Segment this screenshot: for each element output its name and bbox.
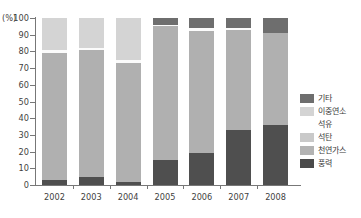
x-tick	[220, 185, 221, 189]
bar-segment-2006-천연가스[interactable]	[189, 31, 214, 153]
legend-label-5: 풍력	[318, 159, 332, 168]
bar-segment-2008-풍력[interactable]	[263, 125, 288, 185]
chart-legend: 기타이중연소석유석탄천연가스풍력	[300, 92, 358, 170]
x-tick	[257, 185, 258, 189]
y-axis-label-100: 100	[13, 14, 29, 22]
bar-segment-2003-풍력[interactable]	[79, 177, 104, 185]
bar-segment-2007-풍력[interactable]	[226, 130, 251, 185]
y-axis-label-50: 50	[19, 98, 29, 106]
x-axis-label-2007: 2007	[220, 193, 257, 202]
bar-segment-2006-기타[interactable]	[189, 18, 214, 28]
bar-segment-2003-이중연소[interactable]	[79, 18, 104, 48]
bar-segment-2005-천연가스[interactable]	[153, 26, 178, 160]
x-tick	[147, 185, 148, 189]
y-axis-label-20: 20	[19, 148, 29, 156]
x-tick	[73, 185, 74, 189]
bar-segment-2005-풍력[interactable]	[153, 160, 178, 185]
bar-2008[interactable]	[263, 18, 288, 185]
bar-segment-2003-석유[interactable]	[79, 48, 104, 50]
bar-segment-2004-천연가스[interactable]	[116, 63, 141, 182]
x-axis-label-2006: 2006	[183, 193, 220, 202]
bar-segment-2006-풍력[interactable]	[189, 153, 214, 185]
bar-segment-2004-이중연소[interactable]	[116, 18, 141, 60]
bar-2007[interactable]	[226, 18, 251, 185]
bar-segment-2002-천연가스[interactable]	[42, 53, 67, 180]
legend-label-2: 석유	[318, 120, 332, 129]
y-axis-label-0: 0	[24, 181, 29, 189]
legend-swatch-icon-5	[300, 159, 314, 168]
y-axis-label-10: 10	[19, 164, 29, 172]
x-axis-label-2008: 2008	[257, 193, 294, 202]
legend-swatch-icon-4	[300, 146, 314, 155]
y-axis-label-60: 60	[19, 81, 29, 89]
bar-segment-2007-기타[interactable]	[226, 18, 251, 28]
y-axis-label-80: 80	[19, 47, 29, 55]
legend-item-5[interactable]: 풍력	[300, 157, 358, 170]
legend-item-4[interactable]: 천연가스	[300, 144, 358, 157]
x-tick	[110, 185, 111, 189]
stacked-bar-chart: (%) 0102030405060708090100 2002200320042…	[0, 0, 361, 218]
y-axis-label-40: 40	[19, 114, 29, 122]
legend-label-4: 천연가스	[318, 146, 346, 155]
y-axis-label-30: 30	[19, 131, 29, 139]
bar-segment-2005-기타[interactable]	[153, 18, 178, 25]
bar-segment-2003-천연가스[interactable]	[79, 50, 104, 177]
x-axis-label-2002: 2002	[36, 193, 73, 202]
y-axis-label-70: 70	[19, 64, 29, 72]
bar-segment-2004-석유[interactable]	[116, 60, 141, 63]
bar-segment-2004-풍력[interactable]	[116, 182, 141, 185]
legend-item-2[interactable]: 석유	[300, 118, 358, 131]
bar-segment-2002-풍력[interactable]	[42, 180, 67, 185]
x-axis-label-2003: 2003	[73, 193, 110, 202]
legend-item-1[interactable]: 이중연소	[300, 105, 358, 118]
x-axis-label-2005: 2005	[147, 193, 184, 202]
legend-label-0: 기타	[318, 94, 332, 103]
bar-2006[interactable]	[189, 18, 214, 185]
bar-segment-2007-천연가스[interactable]	[226, 30, 251, 130]
x-tick	[183, 185, 184, 189]
bar-segment-2008-천연가스[interactable]	[263, 33, 288, 125]
bar-2004[interactable]	[116, 18, 141, 185]
legend-label-3: 석탄	[318, 133, 332, 142]
bar-2005[interactable]	[153, 18, 178, 185]
legend-swatch-icon-3	[300, 133, 314, 142]
legend-item-0[interactable]: 기타	[300, 92, 358, 105]
bar-2003[interactable]	[79, 18, 104, 185]
legend-swatch-icon-2	[300, 120, 314, 129]
x-axis-label-2004: 2004	[110, 193, 147, 202]
plot-area	[36, 18, 294, 185]
y-axis-label-90: 90	[19, 31, 29, 39]
y-axis-tick-labels: 0102030405060708090100	[0, 0, 31, 218]
bar-segment-2007-석유[interactable]	[226, 28, 251, 30]
bar-segment-2006-석유[interactable]	[189, 28, 214, 31]
bar-segment-2008-기타[interactable]	[263, 18, 288, 33]
legend-swatch-icon-0	[300, 94, 314, 103]
bar-segment-2002-이중연소[interactable]	[42, 18, 67, 50]
bar-segment-2005-석유[interactable]	[153, 25, 178, 27]
legend-item-3[interactable]: 석탄	[300, 131, 358, 144]
x-axis-line	[35, 185, 301, 186]
bar-2002[interactable]	[42, 18, 67, 185]
legend-swatch-icon-1	[300, 107, 314, 116]
bar-segment-2002-석유[interactable]	[42, 50, 67, 53]
legend-label-1: 이중연소	[318, 107, 346, 116]
